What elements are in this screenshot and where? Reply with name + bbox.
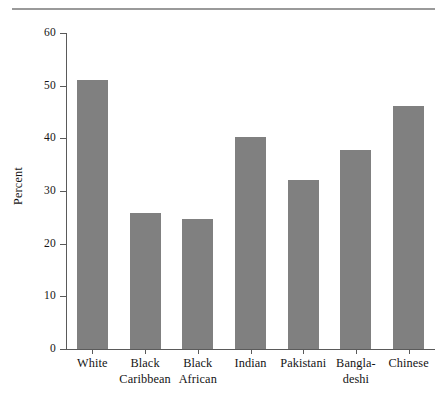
- x-axis-tick: [303, 349, 304, 354]
- x-axis-tick: [198, 349, 199, 354]
- x-axis-label-line: Pakistani: [277, 356, 330, 372]
- x-axis-label-line: Indian: [224, 356, 277, 372]
- bar: [130, 213, 161, 349]
- y-axis-tick-label-text: 40: [12, 132, 56, 144]
- bar: [340, 150, 371, 349]
- x-axis-label: Pakistani: [277, 356, 330, 372]
- x-axis-label-line: Black: [171, 356, 224, 372]
- bar: [182, 219, 213, 349]
- x-axis-label-line: White: [66, 356, 119, 372]
- x-axis-label: Indian: [224, 356, 277, 372]
- y-axis-tick-label: 60: [12, 27, 56, 39]
- x-axis-tick: [251, 349, 252, 354]
- y-axis-tick-label: 40: [12, 132, 56, 144]
- y-axis-tick-label-text: 60: [12, 27, 56, 39]
- y-axis-tick: [60, 191, 66, 192]
- y-axis-tick-label: 10: [12, 290, 56, 302]
- y-axis-tick: [60, 296, 66, 297]
- x-axis-label: Chinese: [382, 356, 435, 372]
- y-axis-tick-label-text: 20: [12, 238, 56, 250]
- y-axis-tick: [60, 138, 66, 139]
- x-axis-label: BlackAfrican: [171, 356, 224, 387]
- bar: [235, 137, 266, 349]
- y-axis-tick-label-text: 10: [12, 290, 56, 302]
- bar-chart-figure: Percent 0102030405060 WhiteBlackCaribbea…: [0, 0, 447, 417]
- x-axis-tick: [145, 349, 146, 354]
- y-axis-tick-label-text: 30: [12, 185, 56, 197]
- y-axis-tick-label: 0: [12, 343, 56, 355]
- y-axis-tick-label: 30: [12, 185, 56, 197]
- x-axis-label-line: Bangla-: [330, 356, 383, 372]
- y-axis-tick: [60, 33, 66, 34]
- x-axis-tick: [409, 349, 410, 354]
- x-axis-label: White: [66, 356, 119, 372]
- x-axis-label-line: Black: [119, 356, 172, 372]
- y-axis-tick-label-text: 50: [12, 80, 56, 92]
- x-axis-label-line: deshi: [330, 372, 383, 388]
- y-axis-tick: [60, 86, 66, 87]
- x-axis-label-line: Chinese: [382, 356, 435, 372]
- y-axis-tick: [60, 349, 66, 350]
- x-axis-tick: [92, 349, 93, 354]
- y-axis-tick-label: 50: [12, 80, 56, 92]
- x-axis-tick: [356, 349, 357, 354]
- y-axis-tick-label: 20: [12, 238, 56, 250]
- x-axis-label-line: Caribbean: [119, 372, 172, 388]
- y-axis-line: [66, 33, 67, 350]
- x-axis-label: BlackCaribbean: [119, 356, 172, 387]
- x-axis-label-line: African: [171, 372, 224, 388]
- bar: [288, 180, 319, 349]
- x-axis-label: Bangla-deshi: [330, 356, 383, 387]
- y-axis-tick-label-text: 0: [12, 343, 56, 355]
- y-axis-tick: [60, 244, 66, 245]
- bar: [77, 80, 108, 349]
- bar: [393, 106, 424, 349]
- plot-area: Percent 0102030405060 WhiteBlackCaribbea…: [0, 0, 447, 417]
